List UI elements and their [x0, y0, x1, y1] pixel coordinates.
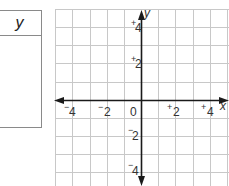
- y-tick-value: 4: [132, 164, 139, 178]
- y-tick-value: 2: [132, 129, 139, 143]
- origin-label: 0: [130, 105, 137, 119]
- x-tick-sign: +: [201, 102, 206, 112]
- y-axis: [138, 10, 145, 186]
- coordinate-grid: y x 0 − 4 − 2 + 2 + 4 + 4 + 2 − 2 − 4: [0, 0, 229, 186]
- x-tick-value: 4: [69, 105, 76, 119]
- y-tick-value: 2: [135, 57, 142, 71]
- x-tick-value: 2: [104, 105, 111, 119]
- x-tick-value: 4: [207, 105, 214, 119]
- y-tick-value: 4: [135, 21, 142, 35]
- x-tick-sign: −: [98, 102, 103, 112]
- x-tick-sign: +: [167, 102, 172, 112]
- x-tick-labels: − 4 − 2 + 2 + 4: [64, 102, 214, 119]
- y-axis-label: y: [143, 6, 151, 20]
- x-tick-value: 2: [173, 105, 180, 119]
- x-axis-label: x: [219, 99, 227, 113]
